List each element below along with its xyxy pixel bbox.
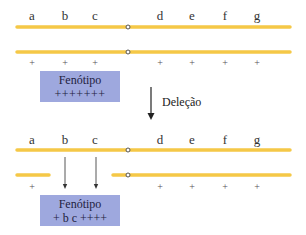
phenotype-title: Fenótipo bbox=[59, 197, 102, 211]
phenotype-title: Fenótipo bbox=[59, 73, 102, 87]
gene-label-a: a bbox=[29, 8, 35, 23]
down-arrow-icon bbox=[148, 113, 155, 120]
deletion-diagram: a b c d e f g + + + + + + + Fenótipo +++… bbox=[0, 0, 306, 235]
allele-f: + bbox=[222, 181, 228, 192]
deletion-step: Deleção bbox=[148, 87, 202, 120]
allele-e: + bbox=[189, 57, 195, 68]
gene-label-f: f bbox=[223, 132, 228, 147]
gene-labels-top: a b c d e f g bbox=[29, 8, 261, 23]
allele-e: + bbox=[189, 181, 195, 192]
centromere-bottom-1 bbox=[126, 148, 130, 152]
phenotype-value: + b c ++++ bbox=[53, 211, 107, 225]
allele-a: + bbox=[29, 181, 35, 192]
arrow-b-icon bbox=[63, 184, 67, 189]
gene-label-d: d bbox=[157, 132, 164, 147]
phenotype-box-before: Fenótipo +++++++ bbox=[40, 71, 120, 102]
gene-label-e: e bbox=[189, 8, 195, 23]
centromere-top-1 bbox=[126, 25, 130, 29]
alleles-top: + + + + + + + bbox=[29, 57, 260, 68]
gene-labels-bottom: a b c d e f g bbox=[29, 132, 261, 147]
gene-label-d: d bbox=[157, 8, 164, 23]
centromere-bottom-2 bbox=[126, 173, 130, 177]
gene-label-b: b bbox=[62, 132, 69, 147]
centromere-top-2 bbox=[126, 50, 130, 54]
allele-a: + bbox=[29, 57, 35, 68]
allele-d: + bbox=[157, 57, 163, 68]
gene-label-b: b bbox=[62, 8, 69, 23]
gene-label-a: a bbox=[29, 132, 35, 147]
gene-label-e: e bbox=[189, 132, 195, 147]
deletion-label: Deleção bbox=[162, 95, 201, 109]
expression-arrows bbox=[63, 157, 98, 189]
gene-label-g: g bbox=[254, 8, 261, 23]
allele-f: + bbox=[222, 57, 228, 68]
gene-label-f: f bbox=[223, 8, 228, 23]
alleles-bottom: + + + + + bbox=[29, 181, 260, 192]
allele-c: + bbox=[92, 57, 98, 68]
gene-label-c: c bbox=[92, 8, 98, 23]
arrow-c-icon bbox=[94, 184, 98, 189]
allele-b: + bbox=[62, 57, 68, 68]
phenotype-value: +++++++ bbox=[55, 87, 106, 101]
gene-label-g: g bbox=[254, 132, 261, 147]
phenotype-box-after: Fenótipo + b c ++++ bbox=[40, 195, 120, 226]
gene-label-c: c bbox=[92, 132, 98, 147]
allele-d: + bbox=[157, 181, 163, 192]
allele-g: + bbox=[254, 181, 260, 192]
allele-g: + bbox=[254, 57, 260, 68]
